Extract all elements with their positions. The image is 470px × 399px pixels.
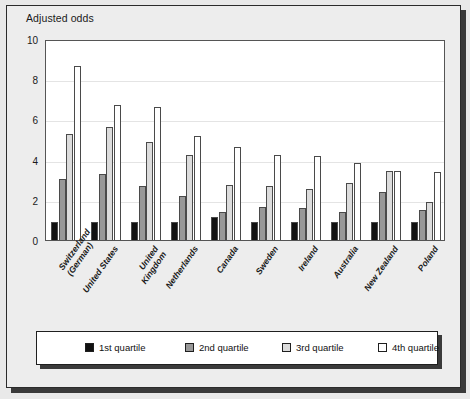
bar bbox=[219, 212, 226, 241]
plot-area bbox=[45, 40, 445, 241]
legend-label: 1st quartile bbox=[99, 342, 145, 353]
legend-item[interactable]: 4th quartile bbox=[378, 342, 439, 353]
bar bbox=[74, 66, 81, 241]
bar-group bbox=[326, 41, 366, 241]
bar bbox=[259, 207, 266, 241]
legend-shadow-bottom bbox=[40, 365, 442, 369]
y-axis-tick-label: 4 bbox=[32, 155, 38, 166]
bar bbox=[419, 210, 426, 241]
y-axis-tick-label: 8 bbox=[32, 75, 38, 86]
bar bbox=[266, 186, 273, 241]
bar-group bbox=[366, 41, 406, 241]
x-axis-tick-label: Switzerland(German) bbox=[57, 244, 89, 278]
legend-label: 2nd quartile bbox=[199, 342, 249, 353]
bar bbox=[171, 222, 178, 241]
bar bbox=[274, 155, 281, 241]
bar bbox=[291, 222, 298, 241]
legend-item[interactable]: 1st quartile bbox=[85, 342, 145, 353]
bar bbox=[139, 186, 146, 241]
legend-swatch-icon bbox=[378, 343, 387, 352]
bar bbox=[114, 105, 121, 241]
x-axis-labels: Switzerland(German)United StatesUnitedKi… bbox=[45, 242, 445, 327]
frame-shadow-bottom bbox=[11, 388, 466, 393]
bar bbox=[154, 107, 161, 241]
bar-group bbox=[206, 41, 246, 241]
bar bbox=[331, 222, 338, 241]
bar-group bbox=[126, 41, 166, 241]
bar bbox=[226, 185, 233, 241]
y-axis-tick-label: 0 bbox=[32, 236, 38, 247]
legend-label: 3rd quartile bbox=[296, 342, 344, 353]
bar bbox=[306, 189, 313, 241]
bar bbox=[234, 147, 241, 241]
bar-group bbox=[166, 41, 206, 241]
legend-swatch-icon bbox=[282, 343, 291, 352]
bar bbox=[131, 222, 138, 241]
bar bbox=[426, 202, 433, 241]
legend-item[interactable]: 3rd quartile bbox=[282, 342, 344, 353]
bar bbox=[99, 174, 106, 241]
legend-item[interactable]: 2nd quartile bbox=[185, 342, 249, 353]
bar bbox=[386, 171, 393, 241]
bar bbox=[51, 222, 58, 241]
bar-group bbox=[246, 41, 286, 241]
bar-group bbox=[286, 41, 326, 241]
legend-swatch-icon bbox=[185, 343, 194, 352]
bar bbox=[179, 196, 186, 241]
bar bbox=[371, 222, 378, 241]
y-axis-tick-label: 10 bbox=[27, 35, 38, 46]
chart-legend: 1st quartile2nd quartile3rd quartile4th … bbox=[36, 331, 438, 365]
bar bbox=[394, 171, 401, 241]
bar bbox=[194, 136, 201, 241]
bar bbox=[339, 212, 346, 241]
legend-swatch-icon bbox=[85, 343, 94, 352]
bar-group bbox=[46, 41, 86, 241]
chart-figure: Adjusted odds 0246810 Switzerland(German… bbox=[0, 0, 470, 399]
bar-group bbox=[86, 41, 126, 241]
y-axis-tick-label: 6 bbox=[32, 115, 38, 126]
bar bbox=[106, 127, 113, 241]
frame-shadow-right bbox=[461, 10, 466, 392]
bar bbox=[66, 134, 73, 241]
bar bbox=[299, 208, 306, 241]
bar-group bbox=[406, 41, 445, 241]
bar bbox=[146, 142, 153, 242]
bar bbox=[434, 172, 441, 241]
bar bbox=[379, 192, 386, 241]
legend-label: 4th quartile bbox=[392, 342, 439, 353]
bar bbox=[411, 222, 418, 241]
bars-layer bbox=[46, 41, 445, 241]
bar bbox=[186, 155, 193, 241]
bar bbox=[211, 217, 218, 241]
y-axis: 0246810 bbox=[0, 40, 45, 241]
bar bbox=[59, 179, 66, 241]
plot-wrapper bbox=[45, 40, 445, 241]
bar bbox=[354, 163, 361, 241]
y-axis-tick-label: 2 bbox=[32, 195, 38, 206]
bar bbox=[314, 156, 321, 241]
chart-title: Adjusted odds bbox=[26, 12, 94, 24]
bar bbox=[346, 183, 353, 241]
bar bbox=[251, 222, 258, 241]
